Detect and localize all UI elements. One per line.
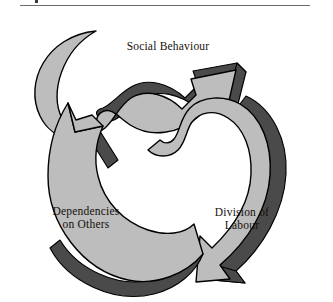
page-canvas: Social Behaviour Division of Labour Depe…	[0, 0, 333, 302]
node-label-dependencies-on-others: Dependencies on Others	[34, 205, 138, 231]
node-label-division-of-labour: Division of Labour	[196, 206, 288, 232]
cyclical-arrow-diagram: Social Behaviour Division of Labour Depe…	[0, 8, 333, 302]
node-label-social-behaviour: Social Behaviour	[98, 40, 238, 53]
header-rule	[20, 5, 310, 6]
header-mark-icon	[35, 0, 38, 3]
